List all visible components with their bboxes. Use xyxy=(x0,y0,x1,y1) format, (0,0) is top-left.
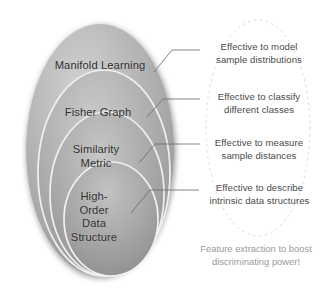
callout-describe-line1: Effective to describe xyxy=(200,182,319,195)
callout-measure: Effective to measure sample distances xyxy=(202,137,316,162)
callout-model-line1: Effective to model xyxy=(202,41,316,54)
callout-measure-line1: Effective to measure xyxy=(202,137,316,150)
callout-classify: Effective to classify different classes xyxy=(202,91,316,116)
leader-line-fisher xyxy=(147,99,200,117)
leader-line-manifold xyxy=(154,50,200,72)
callout-describe: Effective to describe intrinsic data str… xyxy=(200,182,319,207)
summary-note-line2: discriminating power! xyxy=(193,256,319,269)
leader-line-highorder xyxy=(131,190,199,213)
callout-describe-line2: intrinsic data structures xyxy=(200,195,319,208)
callout-measure-line2: sample distances xyxy=(202,150,316,163)
summary-note-line1: Feature extraction to boost xyxy=(193,243,319,256)
diagram-canvas: Manifold Learning Fisher Graph Similarit… xyxy=(0,0,320,289)
callout-classify-line2: different classes xyxy=(202,104,316,117)
callout-model-line2: sample distributions xyxy=(202,54,316,67)
callout-model: Effective to model sample distributions xyxy=(202,41,316,66)
summary-note: Feature extraction to boost discriminati… xyxy=(193,243,319,268)
callout-classify-line1: Effective to classify xyxy=(202,91,316,104)
leader-line-similarity xyxy=(139,144,200,163)
